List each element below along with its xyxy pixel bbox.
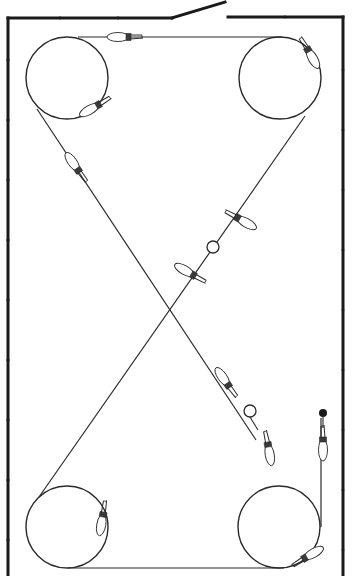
snap-clip-icon — [261, 429, 276, 466]
wall-fastener — [6, 178, 9, 181]
snap-clip-icon — [223, 207, 259, 233]
figure-eight-pulley-diagram — [0, 0, 364, 576]
wall-fastener — [342, 189, 345, 192]
wall-fastener — [117, 17, 120, 20]
wall-fastener — [59, 17, 62, 20]
wall-fastener — [342, 129, 345, 132]
wall-fastener — [342, 309, 345, 312]
door-leaf — [172, 2, 225, 18]
link-segment — [250, 417, 258, 430]
snap-clip-icon — [173, 261, 209, 287]
diagram-canvas — [0, 0, 364, 576]
wall-fastener — [342, 69, 345, 72]
end-knob-icon — [319, 409, 327, 417]
wall-fastener — [6, 298, 9, 301]
line-end-knob — [319, 409, 327, 417]
snap-clip-icon — [78, 94, 114, 120]
snap-clip-icon — [297, 35, 323, 71]
snap-clip-icon — [319, 425, 328, 461]
wall-fastener — [342, 489, 345, 492]
snap-clip-icon — [62, 150, 90, 185]
wall-fastener — [284, 16, 287, 19]
wall-fastener — [342, 429, 345, 432]
wall-fastener — [6, 238, 9, 241]
wall-fastener — [6, 478, 9, 481]
pulleys — [26, 37, 321, 568]
wall-fastener — [6, 418, 9, 421]
enclosure-walls — [6, 2, 344, 576]
ring-icon — [207, 241, 219, 253]
wall-fastener — [6, 538, 9, 541]
snap-clips — [62, 33, 327, 570]
snap-clip-icon — [290, 544, 326, 570]
wall-fastener — [6, 118, 9, 121]
wall-fastener — [342, 549, 345, 552]
pulley-bottom-left — [26, 486, 108, 568]
wall-fastener — [342, 249, 345, 252]
ring-icon — [244, 405, 256, 417]
connector-rings — [207, 241, 256, 417]
wall-fastener — [6, 358, 9, 361]
wall-fastener — [6, 58, 9, 61]
wall-fastener — [342, 369, 345, 372]
